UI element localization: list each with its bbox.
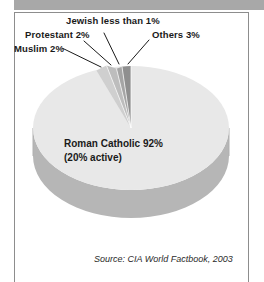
callout-label-protestant: Protestant 2% [25,29,90,40]
leader-line-jewish [104,33,119,64]
leader-line-protestant [84,41,111,65]
main-slice-label-line1: Roman Catholic 92% [64,137,163,151]
leader-line-others [128,40,149,64]
callout-label-jewish: Jewish less than 1% [66,15,160,26]
pie-chart-figure: Jewish less than 1% Others 3% Protestant… [0,0,264,282]
callout-label-muslim: Muslim 2% [14,43,64,54]
main-slice-label-line2: (20% active) [64,151,163,165]
source-note: Source: CIA World Factbook, 2003 [94,254,233,264]
callout-label-others: Others 3% [152,29,200,40]
main-slice-label: Roman Catholic 92% (20% active) [64,137,163,164]
